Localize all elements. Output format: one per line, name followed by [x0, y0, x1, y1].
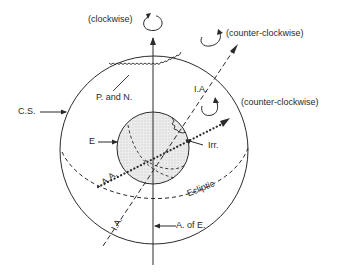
counter-clockwise-top-label: (counter-clockwise) [226, 29, 304, 38]
aoe-label: A. of E. [176, 221, 206, 230]
clockwise-label: (clockwise) [88, 15, 133, 24]
pn-leader [113, 75, 129, 91]
e-label: E [89, 137, 95, 146]
ia-top-label: I.A. [194, 85, 208, 94]
celestial-sphere-diagram: (clockwise) (counter-clockwise) (counter… [0, 0, 340, 274]
clockwise-rotation-icon [144, 16, 162, 31]
counter-clockwise-side-arrowhead [213, 97, 219, 103]
cs-label: C.S. [18, 107, 36, 116]
pn-label: P. and N. [96, 93, 132, 102]
irr-label: Irr. [208, 141, 219, 150]
counter-clockwise-side-label: (counter-clockwise) [241, 98, 319, 107]
angular-axis-arrowhead [220, 118, 230, 127]
diagram-graphics [0, 0, 340, 274]
instantaneous-axis-arrowhead [230, 44, 238, 54]
counter-clockwise-top-rotation-icon [201, 33, 220, 46]
